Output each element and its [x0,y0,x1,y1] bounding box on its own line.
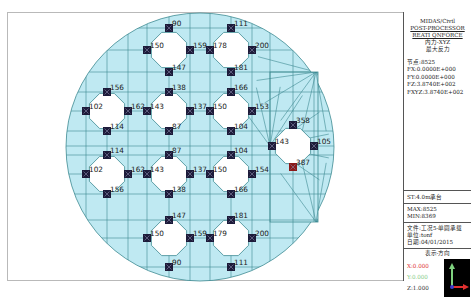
reaction-value: 143 [275,137,289,146]
reaction-value: 181 [234,63,248,72]
fx-value: FX:0.0000E+000 [407,66,471,73]
file-info: 文件:工况5-单圆承载 单位:tonf 日期:04/01/2015 [404,223,471,249]
reaction-value: 137 [193,165,207,174]
reaction-value: 150 [213,102,227,111]
y-direction: Y:0.000 [407,274,428,281]
reaction-value: 104 [234,146,248,155]
reaction-value: 358 [296,116,310,125]
app-name: MIDAS/Civil [404,18,471,25]
reaction-value: 166 [234,185,248,194]
axis-triad-icon [444,259,470,297]
reaction-value: 153 [255,102,269,111]
reaction-value: 178 [213,41,227,50]
module-name: POST-PROCESSOR [404,25,471,32]
reaction-value: 162 [131,165,145,174]
reaction-value: 111 [234,19,248,28]
reaction-value: 162 [131,102,145,111]
reaction-value: 150 [213,165,227,174]
pile-hole [151,220,186,255]
pile-hole [213,220,248,255]
reaction-value: 179 [213,229,227,238]
reaction-value: 102 [89,165,103,174]
reaction-value: 87 [172,146,182,155]
component-label: 内力-XYZ [404,39,471,46]
result-type: REATI QNFORCE [404,32,471,39]
z-direction: Z:1.000 [407,285,429,292]
reaction-value: 138 [172,185,186,194]
reaction-value: 159 [193,41,207,50]
info-panel: MIDAS/Civil POST-PROCESSOR REATI QNFORCE… [403,12,471,281]
max-reaction-label: 最大反力 [404,46,471,53]
reaction-value: 104 [234,122,248,131]
reaction-value: 150 [150,41,164,50]
reaction-value: 159 [193,229,207,238]
max-min-info: MAX:8525 MIN:8369 [404,204,471,223]
fxyz-value: FXYZ:3.8740E+002 [407,89,471,96]
reaction-value: 90 [172,19,182,28]
x-direction: X:0.000 [407,263,429,270]
node-info: 节点:8525 FX:0.0000E+000 FY:0.0000E+000 FZ… [407,59,471,96]
unit-label: 单位:tonf [407,232,471,239]
panel-title: MIDAS/Civil POST-PROCESSOR REATI QNFORCE… [404,18,471,53]
reaction-value: 143 [150,102,164,111]
node-id: 节点:8525 [407,59,471,66]
min-node: MIN:8369 [407,213,471,220]
reaction-value: 150 [150,229,164,238]
reaction-value: 114 [110,146,124,155]
reaction-value: 137 [193,102,207,111]
reaction-value: 156 [110,185,124,194]
reaction-value: 87 [172,122,182,131]
view-direction-title: 表示-方向 [404,249,471,257]
stage-info: ST:4.0m承台 MAX:8525 MIN:8369 文件:工况5-单圆承载 … [404,190,471,297]
reaction-value: 181 [234,211,248,220]
reaction-value: 147 [172,211,186,220]
reaction-value: 143 [150,165,164,174]
view-direction: X:0.000 Y:0.000 Z:1.000 [404,257,471,297]
reaction-value: 105 [317,137,331,146]
reaction-value: 200 [255,229,269,238]
stage-label: ST:4.0m承台 [404,191,471,204]
file-name: 文件:工况5-单圆承载 [407,225,471,232]
reaction-value: 200 [255,41,269,50]
reaction-value: 114 [110,122,124,131]
date-label: 日期:04/01/2015 [407,239,471,246]
reaction-value: 387 [296,158,310,167]
reaction-value: 138 [172,83,186,92]
reaction-value: 166 [234,83,248,92]
reaction-value: 90 [172,258,182,267]
reaction-value: 156 [110,83,124,92]
pile-hole [151,93,186,128]
fz-value: FZ:3.8740E+002 [407,81,471,88]
reaction-value: 102 [89,102,103,111]
fy-value: FY:0.0000E+000 [407,74,471,81]
reaction-value: 154 [255,165,269,174]
reaction-value: 147 [172,63,186,72]
reaction-value: 111 [234,258,248,267]
max-node: MAX:8525 [407,206,471,213]
